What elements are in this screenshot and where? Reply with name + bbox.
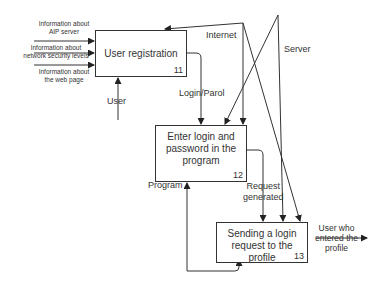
label-line: Information about: [34, 20, 94, 28]
label-line: the web page: [34, 76, 94, 84]
label-request-generated: Request generated: [243, 181, 284, 203]
box-number: 12: [233, 170, 243, 180]
label-internet: Internet: [206, 30, 237, 41]
box-number: 11: [174, 65, 183, 75]
label-line: AIP server: [34, 28, 94, 36]
label-line: Request: [243, 181, 284, 192]
label-line: generated: [243, 192, 284, 203]
label-line: entered the: [315, 233, 358, 243]
box-enter-login[interactable]: Enter login and password in the program …: [155, 125, 247, 182]
label-login-parol: Login/Parol: [179, 88, 225, 99]
input-label-web-page: Information about the web page: [34, 68, 94, 84]
box-title: Enter login and password in the program: [156, 131, 246, 167]
label-line: Information about: [34, 68, 94, 76]
input-label-network-security: Information about network security level…: [18, 44, 94, 60]
box-user-registration[interactable]: User registration 11: [95, 30, 187, 77]
title-line: Enter login and: [156, 131, 246, 143]
title-line: program: [156, 155, 246, 167]
title-line: Sending a login: [217, 228, 307, 240]
label-line: User who: [315, 223, 358, 233]
box-sending-request[interactable]: Sending a login request to the profile 1…: [216, 222, 308, 263]
label-output-user-entered-profile: User who entered the profile: [315, 223, 358, 253]
label-program: Program: [148, 180, 183, 191]
title-line: password in the: [156, 143, 246, 155]
label-line: network security levels: [18, 52, 94, 60]
box-number: 13: [294, 251, 304, 261]
label-server: Server: [284, 44, 311, 55]
box-title: User registration: [96, 48, 186, 60]
input-label-aip-server: Information about AIP server: [34, 20, 94, 36]
label-line: Information about: [18, 44, 94, 52]
label-line: profile: [315, 243, 358, 253]
label-user: User: [107, 96, 126, 107]
